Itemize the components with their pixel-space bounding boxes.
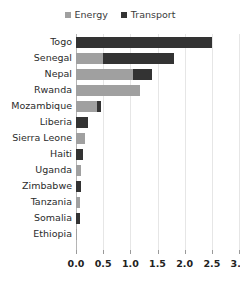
bar-chart: Energy Transport TogoSenegalNepalRwandaM…: [0, 0, 240, 284]
bar-row[interactable]: [76, 229, 77, 240]
chart-legend: Energy Transport: [0, 9, 240, 21]
x-tick-mark: [185, 250, 186, 254]
bar-segment-transport[interactable]: [133, 69, 152, 80]
bar-segment-energy[interactable]: [76, 85, 140, 96]
bar-segment-transport[interactable]: [76, 213, 80, 224]
bar-segment-energy[interactable]: [76, 53, 103, 64]
category-label: Zimbabwe: [0, 178, 72, 194]
bar-segment-energy[interactable]: [76, 101, 97, 112]
bar-row[interactable]: [76, 69, 152, 80]
bar-row[interactable]: [76, 53, 174, 64]
plot-area: [76, 34, 239, 250]
x-axis-tick-marks: [76, 250, 239, 256]
category-axis-labels: TogoSenegalNepalRwandaMozambiqueLiberiaS…: [0, 34, 72, 250]
legend-item-transport: Transport: [121, 9, 176, 21]
x-tick-mark: [239, 250, 240, 254]
category-label: Liberia: [0, 114, 72, 130]
bar-segment-transport[interactable]: [76, 181, 81, 192]
legend-item-energy: Energy: [65, 9, 108, 21]
category-label: Tanzania: [0, 194, 72, 210]
category-label: Mozambique: [0, 98, 72, 114]
x-tick-mark: [103, 250, 104, 254]
bar-row[interactable]: [76, 37, 212, 48]
bar-row[interactable]: [76, 101, 101, 112]
category-label: Senegal: [0, 50, 72, 66]
x-tick-mark: [158, 250, 159, 254]
bar-series-group: [76, 34, 239, 250]
x-axis-tick-labels: 0.00.51.01.52.02.53.0: [0, 258, 240, 272]
legend-swatch-energy: [65, 12, 71, 18]
bar-row[interactable]: [76, 213, 80, 224]
bar-segment-transport[interactable]: [76, 37, 212, 48]
category-label: Nepal: [0, 66, 72, 82]
bar-row[interactable]: [76, 117, 88, 128]
x-tick-mark: [212, 250, 213, 254]
category-label: Togo: [0, 34, 72, 50]
legend-swatch-transport: [121, 12, 127, 18]
bar-row[interactable]: [76, 85, 140, 96]
legend-label-energy: Energy: [75, 10, 108, 20]
bar-segment-transport[interactable]: [103, 53, 174, 64]
category-label: Ethiopia: [0, 226, 72, 242]
bar-segment-transport[interactable]: [76, 117, 88, 128]
bar-segment-transport[interactable]: [97, 101, 101, 112]
x-tick-mark: [130, 250, 131, 254]
category-label: Rwanda: [0, 82, 72, 98]
category-label: Haiti: [0, 146, 72, 162]
bar-row[interactable]: [76, 197, 80, 208]
category-label: Uganda: [0, 162, 72, 178]
gridline: [239, 34, 240, 250]
bar-row[interactable]: [76, 149, 83, 160]
bar-row[interactable]: [76, 181, 81, 192]
bar-segment-transport[interactable]: [76, 149, 83, 160]
category-label: Sierra Leone: [0, 130, 72, 146]
bar-row[interactable]: [76, 165, 81, 176]
x-tick-label: 3.0: [219, 258, 240, 270]
bar-segment-energy[interactable]: [76, 197, 80, 208]
category-label: Somalia: [0, 210, 72, 226]
bar-segment-energy[interactable]: [76, 69, 133, 80]
bar-segment-energy[interactable]: [76, 133, 85, 144]
legend-label-transport: Transport: [131, 10, 176, 20]
bar-segment-energy[interactable]: [76, 165, 81, 176]
x-tick-mark: [76, 250, 77, 254]
bar-row[interactable]: [76, 133, 85, 144]
bar-segment-energy[interactable]: [76, 229, 77, 240]
